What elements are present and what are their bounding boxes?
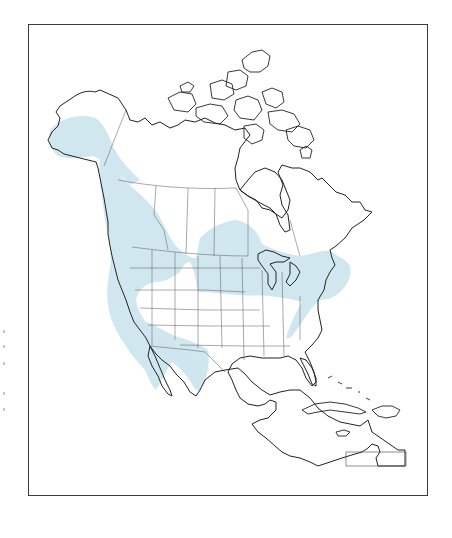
arctic-islands [168,50,314,158]
range-alaska [49,116,140,185]
hispaniola-outline [372,406,400,418]
scan-artifacts [3,330,5,411]
page [0,0,452,538]
range-main [99,158,350,391]
florida-outline [300,358,316,386]
jamaica-outline [336,430,350,436]
bahamas-outline [328,376,370,400]
range-map [0,0,452,538]
cuba-outline [302,402,366,414]
hudson-bay-outline [240,168,290,218]
species-range [49,116,350,390]
